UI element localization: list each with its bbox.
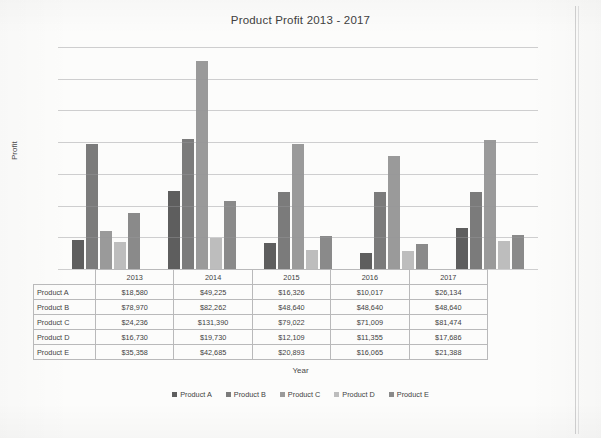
legend-swatch-icon (389, 392, 394, 397)
table-row-header: Product C (34, 315, 96, 330)
bar (264, 243, 276, 269)
table-cell: $131,390 (174, 315, 252, 330)
table-row: Product C$24,236$131,390$79,022$71,009$8… (34, 315, 488, 330)
table-cell: $26,134 (409, 285, 487, 300)
bar (402, 251, 414, 269)
bar (128, 213, 140, 269)
legend-item: Product B (226, 390, 266, 399)
bar-groups (58, 47, 538, 269)
table-corner-cell (34, 270, 96, 285)
data-table-container: 20132014201520162017 Product A$18,580$49… (33, 269, 488, 360)
y-axis-label: Profit (10, 141, 19, 160)
bar (168, 191, 180, 269)
table-column-header: 2014 (174, 270, 252, 285)
gridline (58, 47, 538, 48)
table-column-header: 2017 (409, 270, 487, 285)
gridline (58, 142, 538, 143)
table-cell: $49,225 (174, 285, 252, 300)
legend-item: Product A (172, 390, 212, 399)
legend-swatch-icon (172, 392, 177, 397)
table-column-header: 2016 (331, 270, 409, 285)
bar (210, 238, 222, 269)
table-cell: $42,685 (174, 345, 252, 360)
legend-item: Product C (280, 390, 320, 399)
bar-group (154, 47, 250, 269)
table-cell: $48,640 (252, 300, 330, 315)
table-cell: $21,388 (409, 345, 487, 360)
table-cell: $20,893 (252, 345, 330, 360)
table-cell: $82,262 (174, 300, 252, 315)
bar-group (442, 47, 538, 269)
bar (456, 228, 468, 269)
bar-group (250, 47, 346, 269)
table-cell: $78,970 (96, 300, 174, 315)
bar (374, 192, 386, 269)
gridline (58, 110, 538, 111)
legend-label: Product D (342, 390, 374, 399)
legend-label: Product E (397, 390, 429, 399)
legend-label: Product A (180, 390, 212, 399)
chart-area: Profit $0$20,000$40,000$60,000$80,000$10… (0, 0, 601, 438)
x-axis-label: Year (0, 366, 601, 375)
table-row-header: Product B (34, 300, 96, 315)
bar-group (58, 47, 154, 269)
legend-item: Product E (389, 390, 429, 399)
bar (498, 241, 510, 269)
bar (278, 192, 290, 269)
table-column-header: 2015 (252, 270, 330, 285)
plot-area: $0$20,000$40,000$60,000$80,000$100,000$1… (58, 47, 538, 269)
gridline (58, 79, 538, 80)
table-cell: $11,355 (331, 330, 409, 345)
table-cell: $18,580 (96, 285, 174, 300)
table-cell: $71,009 (331, 315, 409, 330)
bar-group (346, 47, 442, 269)
gridline (58, 237, 538, 238)
bar (224, 201, 236, 269)
table-row-header: Product A (34, 285, 96, 300)
bar (484, 140, 496, 269)
table-cell: $48,640 (331, 300, 409, 315)
table-cell: $12,109 (252, 330, 330, 345)
table-row: Product A$18,580$49,225$16,326$10,017$26… (34, 285, 488, 300)
table-cell: $79,022 (252, 315, 330, 330)
bar (306, 250, 318, 269)
table-cell: $24,236 (96, 315, 174, 330)
table-cell: $10,017 (331, 285, 409, 300)
gridline (58, 206, 538, 207)
table-cell: $19,730 (174, 330, 252, 345)
bar (72, 240, 84, 269)
bar (470, 192, 482, 269)
gridline (58, 174, 538, 175)
table-row-header: Product D (34, 330, 96, 345)
data-table: 20132014201520162017 Product A$18,580$49… (33, 269, 488, 360)
bar (360, 253, 372, 269)
legend-label: Product B (234, 390, 266, 399)
legend-swatch-icon (226, 392, 231, 397)
table-row: Product D$16,730$19,730$12,109$11,355$17… (34, 330, 488, 345)
bar (182, 139, 194, 269)
table-cell: $16,326 (252, 285, 330, 300)
bar (512, 235, 524, 269)
table-header-row: 20132014201520162017 (34, 270, 488, 285)
table-cell: $17,686 (409, 330, 487, 345)
table-row: Product B$78,970$82,262$48,640$48,640$48… (34, 300, 488, 315)
table-row: Product E$35,358$42,685$20,893$16,065$21… (34, 345, 488, 360)
table-column-header: 2013 (96, 270, 174, 285)
bar (416, 244, 428, 269)
table-cell: $16,065 (331, 345, 409, 360)
legend-swatch-icon (280, 392, 285, 397)
table-cell: $48,640 (409, 300, 487, 315)
legend-item: Product D (334, 390, 374, 399)
chart-legend: Product AProduct BProduct CProduct DProd… (0, 390, 601, 399)
table-row-header: Product E (34, 345, 96, 360)
table-cell: $81,474 (409, 315, 487, 330)
legend-label: Product C (288, 390, 320, 399)
table-cell: $35,358 (96, 345, 174, 360)
table-cell: $16,730 (96, 330, 174, 345)
bar (114, 242, 126, 269)
bar (320, 236, 332, 269)
legend-swatch-icon (334, 392, 339, 397)
